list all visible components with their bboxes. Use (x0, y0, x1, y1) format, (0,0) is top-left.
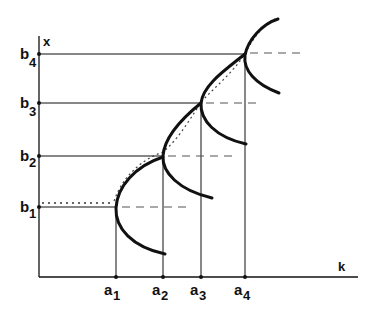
a3-tick (199, 275, 203, 279)
y-tick-label-b4: b 4 (20, 45, 37, 70)
x-tick-label-a2: a 2 (152, 281, 168, 303)
arc-3 (201, 54, 246, 144)
x-axis-label: k (338, 259, 346, 274)
svg-text:2: 2 (161, 288, 168, 303)
x-tick-label-a3: a 3 (190, 281, 206, 303)
svg-text:a: a (104, 281, 113, 298)
svg-text:1: 1 (113, 288, 120, 303)
x-tick-label-a4: a 4 (234, 281, 251, 303)
y-tick-label-b1: b 1 (20, 198, 36, 221)
arc-1 (116, 157, 165, 254)
svg-text:2: 2 (29, 155, 36, 170)
diagram-canvas: x k a 1 a 2 a 3 a 4 b (0, 0, 376, 312)
a1-tick (114, 275, 118, 279)
x-tick-label-a1: a 1 (104, 281, 120, 303)
svg-text:b: b (20, 198, 29, 215)
svg-text:a: a (190, 281, 199, 298)
svg-text:3: 3 (29, 104, 36, 119)
svg-text:b: b (20, 45, 29, 62)
y-tick-label-b3: b 3 (20, 94, 36, 119)
svg-text:a: a (152, 281, 161, 298)
b4-tick (37, 52, 41, 56)
svg-text:3: 3 (199, 288, 206, 303)
b3-tick (37, 101, 41, 105)
a4-tick (243, 275, 247, 279)
svg-text:4: 4 (243, 288, 251, 303)
b1-tick (37, 205, 41, 209)
arc-4 (245, 19, 279, 93)
svg-text:1: 1 (29, 206, 36, 221)
y-tick-label-b2: b 2 (20, 147, 36, 170)
a2-tick (161, 275, 165, 279)
svg-text:4: 4 (29, 55, 37, 70)
y-axis-label: x (43, 34, 51, 49)
svg-text:b: b (20, 94, 29, 111)
svg-text:b: b (20, 147, 29, 164)
svg-text:a: a (234, 281, 243, 298)
b2-tick (37, 154, 41, 158)
